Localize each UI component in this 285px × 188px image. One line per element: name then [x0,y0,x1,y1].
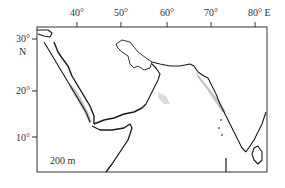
latitude-label-30: 30° [16,34,30,44]
gulf-of-aden-north-coast [94,104,146,124]
latitude-ticks [32,39,37,137]
coastlines [37,30,266,172]
makran-coast [152,62,208,78]
latitude-label-10: 10° [16,133,30,143]
longitude-label-50: 50° [114,8,128,18]
depth-contour-label: 200 m [50,156,75,166]
map-frame [37,27,267,172]
oman-coast [146,64,160,104]
longitude-label-80e: 80° E [248,8,271,18]
longitude-ticks [77,22,255,27]
hemisphere-label: N [19,47,26,57]
red-sea-east-coast [54,42,94,124]
longitude-label-60: 60° [160,8,174,18]
horn-of-africa-coast [92,124,132,172]
longitude-label-70: 70° [204,8,218,18]
india-west-coast [208,78,246,152]
continental-shelf-shading [68,72,226,124]
persian-gulf [116,40,152,70]
sri-lanka [252,146,262,164]
longitude-label-40: 40° [70,8,84,18]
latitude-label-20: 20° [16,86,30,96]
map-canvas [0,0,285,188]
india-east-coast [246,112,266,152]
mediterranean-coast [37,30,52,37]
